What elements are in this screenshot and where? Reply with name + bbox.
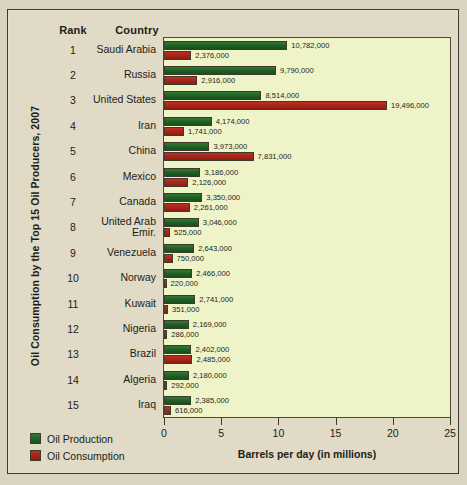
- bar-value-production: 10,782,000: [291, 41, 329, 50]
- bar-production: [164, 142, 209, 151]
- x-axis-tick-label: 20: [378, 427, 408, 439]
- chart-figure: Rank Country Oil Consumption by the Top …: [0, 0, 467, 485]
- x-axis-tick: [278, 418, 279, 425]
- bar-value-production: 4,174,000: [216, 117, 250, 126]
- bar-production: [164, 320, 189, 329]
- bar-value-production: 2,402,000: [195, 345, 229, 354]
- bar-value-consumption: 2,916,000: [201, 76, 235, 85]
- bar-consumption: [164, 305, 168, 314]
- bar-consumption: [164, 406, 171, 415]
- chart-row: 9,790,0002,916,000: [164, 63, 450, 87]
- cell-country: China: [68, 145, 156, 156]
- x-axis-tick-label: 15: [321, 427, 351, 439]
- chart-row: 2,643,000750,000: [164, 241, 450, 265]
- cell-country: Iran: [68, 120, 156, 131]
- bar-production: [164, 295, 195, 304]
- bar-production: [164, 91, 261, 100]
- chart-row: 3,186,0002,126,000: [164, 165, 450, 189]
- chart-row: 2,385,000616,000: [164, 394, 450, 418]
- bar-value-consumption: 1,741,000: [188, 127, 222, 136]
- cell-country: Iraq: [68, 399, 156, 410]
- legend-swatch-consumption-icon: [30, 450, 41, 461]
- bar-consumption: [164, 254, 173, 263]
- bar-consumption: [164, 203, 190, 212]
- chart-row: 3,350,0002,261,000: [164, 190, 450, 214]
- bar-value-consumption: 2,376,000: [195, 51, 229, 60]
- bar-production: [164, 41, 287, 50]
- bar-consumption: [164, 178, 188, 187]
- cell-country: Kuwait: [68, 298, 156, 309]
- table-row: 7Canada: [8, 189, 163, 213]
- bar-consumption: [164, 51, 191, 60]
- chart-panel: Rank Country Oil Consumption by the Top …: [7, 9, 459, 474]
- cell-country: Norway: [68, 272, 156, 283]
- x-axis: 0510152025: [163, 418, 451, 419]
- bar-value-production: 2,180,000: [193, 371, 227, 380]
- bar-consumption: [164, 152, 254, 161]
- x-axis-tick: [221, 418, 222, 425]
- table-row: 1Saudi Arabia: [8, 37, 163, 61]
- bar-value-consumption: 616,000: [175, 406, 202, 415]
- x-axis-tick-label: 0: [149, 427, 179, 439]
- bar-value-consumption: 2,485,000: [196, 355, 230, 364]
- bar-consumption: [164, 279, 167, 288]
- bar-production: [164, 345, 191, 354]
- chart-row: 2,466,000220,000: [164, 267, 450, 291]
- table-row: 3United States: [8, 88, 163, 112]
- legend-item-consumption: Oil Consumption: [30, 448, 125, 463]
- chart-row: 4,174,0001,741,000: [164, 114, 450, 138]
- bar-value-production: 2,643,000: [198, 244, 232, 253]
- table-row: 6Mexico: [8, 164, 163, 188]
- bar-value-consumption: 7,831,000: [258, 152, 292, 161]
- bar-production: [164, 117, 212, 126]
- chart-row: 2,741,000351,000: [164, 292, 450, 316]
- bar-value-consumption: 292,000: [171, 381, 198, 390]
- x-axis-label: Barrels per day (in millions): [163, 448, 451, 460]
- table-row: 12Nigeria: [8, 316, 163, 340]
- bar-consumption: [164, 127, 184, 136]
- table-row: 15Iraq: [8, 393, 163, 417]
- column-header-rank: Rank: [50, 24, 96, 36]
- cell-country: Saudi Arabia: [68, 44, 156, 55]
- bar-value-production: 3,973,000: [213, 142, 247, 151]
- legend-label-consumption: Oil Consumption: [47, 450, 125, 462]
- chart-row: 8,514,00019,496,000: [164, 89, 450, 113]
- table-row: 13Brazil: [8, 342, 163, 366]
- bar-production: [164, 396, 191, 405]
- bar-value-production: 2,741,000: [199, 295, 233, 304]
- chart-row: 3,046,000525,000: [164, 216, 450, 240]
- bar-production: [164, 218, 199, 227]
- chart-row: 2,402,0002,485,000: [164, 343, 450, 367]
- column-header-country: Country: [104, 24, 170, 36]
- bar-value-production: 3,186,000: [204, 168, 238, 177]
- bar-value-consumption: 286,000: [171, 330, 198, 339]
- x-axis-tick-label: 10: [263, 427, 293, 439]
- legend-label-production: Oil Production: [47, 433, 113, 445]
- chart-row: 2,169,000286,000: [164, 317, 450, 341]
- bar-consumption: [164, 355, 192, 364]
- table-row: 9Venezuela: [8, 240, 163, 264]
- bar-value-production: 3,046,000: [203, 218, 237, 227]
- x-axis-tick-label: 25: [435, 427, 465, 439]
- bar-value-consumption: 19,496,000: [391, 101, 429, 110]
- bar-value-consumption: 525,000: [174, 228, 201, 237]
- table-row: 5China: [8, 139, 163, 163]
- x-axis-tick: [450, 418, 451, 425]
- bar-production: [164, 269, 192, 278]
- legend-swatch-production-icon: [30, 433, 41, 444]
- table-row: 8United ArabEmir.: [8, 215, 163, 239]
- bar-production: [164, 371, 189, 380]
- bar-value-consumption: 220,000: [171, 279, 198, 288]
- x-axis-tick: [393, 418, 394, 425]
- cell-country: Nigeria: [68, 323, 156, 334]
- bar-value-consumption: 2,126,000: [192, 178, 226, 187]
- cell-country: Russia: [68, 69, 156, 80]
- bar-production: [164, 244, 194, 253]
- table-row: 2Russia: [8, 62, 163, 86]
- bar-consumption: [164, 101, 387, 110]
- plot-area: 10,782,0002,376,0009,790,0002,916,0008,5…: [163, 37, 451, 418]
- bar-production: [164, 193, 202, 202]
- bar-value-production: 2,169,000: [193, 320, 227, 329]
- bar-value-consumption: 351,000: [172, 305, 199, 314]
- bar-value-consumption: 2,261,000: [194, 203, 228, 212]
